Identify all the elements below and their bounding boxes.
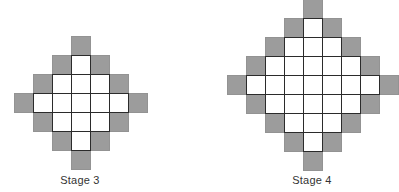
white-tile [284, 37, 304, 57]
white-tile [341, 75, 361, 95]
gray-tile [246, 94, 266, 114]
white-tile [52, 93, 72, 113]
gray-tile [33, 74, 53, 94]
gray-tile [322, 18, 342, 38]
white-tile [284, 75, 304, 95]
gray-tile [90, 55, 110, 75]
white-tile [90, 93, 110, 113]
white-tile [303, 113, 323, 133]
gray-tile [52, 55, 72, 75]
gray-tile [265, 37, 285, 57]
gray-tile [303, 151, 323, 171]
gray-tile [109, 112, 129, 132]
white-tile [33, 93, 53, 113]
gray-tile [128, 93, 148, 113]
white-tile [303, 94, 323, 114]
white-tile [52, 74, 72, 94]
gray-tile [341, 113, 361, 133]
white-tile [71, 131, 91, 151]
gray-tile [227, 75, 247, 95]
gray-tile [33, 112, 53, 132]
white-tile [109, 93, 129, 113]
white-tile [284, 94, 304, 114]
white-tile [284, 56, 304, 76]
gray-tile [341, 37, 361, 57]
white-tile [322, 94, 342, 114]
white-tile [341, 56, 361, 76]
white-tile [71, 93, 91, 113]
white-tile [303, 18, 323, 38]
stage-4-label: Stage 4 [272, 174, 352, 186]
white-tile [303, 75, 323, 95]
gray-tile [284, 18, 304, 38]
gray-tile [246, 56, 266, 76]
white-tile [360, 75, 380, 95]
white-tile [341, 94, 361, 114]
gray-tile [303, 0, 323, 19]
gray-tile [322, 132, 342, 152]
gray-tile [71, 36, 91, 56]
gray-tile [360, 56, 380, 76]
white-tile [71, 74, 91, 94]
gray-tile [379, 75, 399, 95]
white-tile [265, 94, 285, 114]
white-tile [303, 37, 323, 57]
gray-tile [360, 94, 380, 114]
white-tile [322, 56, 342, 76]
gray-tile [14, 93, 34, 113]
white-tile [71, 55, 91, 75]
white-tile [322, 113, 342, 133]
gray-tile [109, 74, 129, 94]
gray-tile [284, 132, 304, 152]
white-tile [322, 37, 342, 57]
white-tile [90, 112, 110, 132]
white-tile [284, 113, 304, 133]
white-tile [52, 112, 72, 132]
white-tile [265, 75, 285, 95]
gray-tile [90, 131, 110, 151]
gray-tile [71, 150, 91, 170]
white-tile [303, 132, 323, 152]
white-tile [303, 56, 323, 76]
gray-tile [265, 113, 285, 133]
white-tile [246, 75, 266, 95]
white-tile [265, 56, 285, 76]
gray-tile [52, 131, 72, 151]
white-tile [90, 74, 110, 94]
white-tile [71, 112, 91, 132]
stage-3-label: Stage 3 [40, 174, 120, 186]
white-tile [322, 75, 342, 95]
